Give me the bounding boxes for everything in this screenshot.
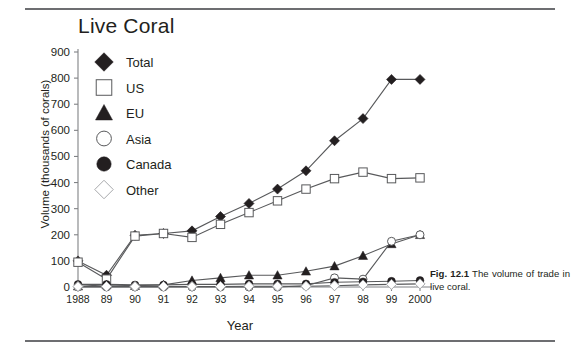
figure-caption-label: Fig. 12.1 <box>430 268 469 279</box>
chart-plot-area: 0100200300400500600700800900198889909192… <box>0 0 587 352</box>
x-axis-tick-label: 96 <box>300 293 312 305</box>
y-axis-tick-label: 0 <box>64 281 70 293</box>
data-point-marker-filled-triangle <box>358 251 367 259</box>
data-point-marker-open-square <box>96 80 112 96</box>
y-axis-tick-label: 600 <box>51 124 70 136</box>
data-point-marker-filled-diamond <box>273 184 283 194</box>
figure-container: Live Coral Volume (thousands of corals) … <box>0 0 587 352</box>
chart-legend: TotalUSEUAsiaCanadaOther <box>95 53 173 199</box>
data-point-marker-open-square <box>131 232 139 240</box>
legend-item-asia: Asia <box>97 131 152 146</box>
data-point-marker-open-square <box>416 174 424 182</box>
legend-item-canada: Canada <box>97 157 173 172</box>
data-point-marker-filled-triangle <box>95 104 112 119</box>
y-axis-tick-label: 800 <box>51 72 70 84</box>
legend-item-label: US <box>126 81 144 96</box>
x-axis-tick-label: 1988 <box>66 293 90 305</box>
data-point-marker-filled-triangle <box>330 262 339 270</box>
x-axis-tick-label: 93 <box>215 293 227 305</box>
figure-caption: Fig. 12.1 The volume of trade in live co… <box>430 268 570 293</box>
legend-item-label: Total <box>126 55 154 70</box>
data-point-marker-filled-diamond <box>358 114 368 124</box>
data-point-marker-filled-diamond <box>387 74 397 84</box>
y-axis-tick-label: 700 <box>51 98 70 110</box>
data-point-marker-filled-diamond <box>95 53 114 72</box>
x-axis-tick-label: 89 <box>101 293 113 305</box>
data-point-marker-open-square <box>216 220 224 228</box>
data-point-marker-open-diamond <box>95 180 114 199</box>
y-axis-tick-label: 200 <box>51 229 70 241</box>
data-point-marker-open-square <box>188 233 196 241</box>
data-point-marker-open-square <box>273 197 281 205</box>
x-axis-tick-label: 92 <box>186 293 198 305</box>
legend-item-label: Other <box>126 183 159 198</box>
legend-item-other: Other <box>95 180 159 199</box>
x-axis-tick-label: 99 <box>386 293 398 305</box>
data-point-marker-open-square <box>245 208 253 216</box>
data-point-marker-open-square <box>302 185 310 193</box>
data-point-marker-filled-diamond <box>415 74 425 84</box>
legend-item-label: Canada <box>126 157 172 172</box>
legend-item-label: Asia <box>126 132 152 147</box>
y-axis-tick-label: 400 <box>51 177 70 189</box>
x-axis-tick-label: 95 <box>272 293 284 305</box>
y-axis-tick-label: 900 <box>51 46 70 58</box>
x-axis-tick-label: 90 <box>129 293 141 305</box>
legend-item-label: EU <box>126 106 144 121</box>
data-point-marker-filled-diamond <box>244 198 254 208</box>
data-point-marker-open-square <box>387 174 395 182</box>
x-axis-tick-label: 91 <box>158 293 170 305</box>
data-point-marker-open-square <box>330 174 338 182</box>
data-point-marker-open-square <box>359 168 367 176</box>
y-axis-tick-label: 100 <box>51 255 70 267</box>
x-axis-tick-label: 97 <box>329 293 341 305</box>
data-point-marker-open-circle <box>388 237 396 245</box>
y-axis-tick-label: 300 <box>51 203 70 215</box>
data-point-marker-open-square <box>159 229 167 237</box>
data-point-marker-open-circle <box>416 231 424 239</box>
data-point-marker-open-circle <box>97 131 112 146</box>
x-axis-tick-label: 98 <box>357 293 369 305</box>
legend-item-eu: EU <box>95 104 144 121</box>
x-axis-tick-label: 94 <box>243 293 255 305</box>
legend-item-total: Total <box>95 53 154 72</box>
x-axis-tick-label: 2000 <box>408 293 432 305</box>
legend-item-us: US <box>96 80 144 96</box>
y-axis-tick-label: 500 <box>51 150 70 162</box>
data-point-marker-filled-circle <box>97 157 111 171</box>
data-point-marker-open-square <box>74 258 82 266</box>
